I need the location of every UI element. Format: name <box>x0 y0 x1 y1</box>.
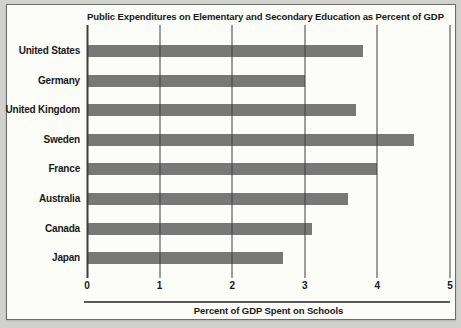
category-label-france: France <box>48 162 80 176</box>
category-label-germany: Germany <box>38 74 80 88</box>
bar-australia <box>87 193 348 205</box>
x-tick-label-0: 0 <box>84 280 90 291</box>
category-label-united-states: United States <box>19 44 80 58</box>
y-axis-labels: United StatesGermanyUnited KingdomSweden… <box>7 25 83 278</box>
figure-page: Public Expenditures on Elementary and Se… <box>0 0 461 328</box>
category-label-united-kingdom: United Kingdom <box>6 103 80 117</box>
x-tick-label-4: 4 <box>375 280 381 291</box>
x-tick-label-3: 3 <box>302 280 308 291</box>
bar-canada <box>87 223 312 235</box>
chart-panel: Public Expenditures on Elementary and Se… <box>6 4 456 320</box>
category-label-japan: Japan <box>52 251 80 265</box>
bar-germany <box>87 75 305 87</box>
x-axis-rule <box>84 301 450 303</box>
bar-sweden <box>87 134 414 146</box>
chart-title: Public Expenditures on Elementary and Se… <box>81 11 450 22</box>
bar-japan <box>87 252 283 264</box>
category-label-sweden: Sweden <box>43 133 80 147</box>
plot-area <box>87 25 450 278</box>
gridline-3 <box>304 25 305 278</box>
gridline-5 <box>450 25 451 278</box>
x-axis-title: Percent of GDP Spent on Schools <box>87 305 450 316</box>
bar-united-kingdom <box>87 104 356 116</box>
gridline-2 <box>232 25 233 278</box>
gridline-1 <box>159 25 160 278</box>
category-label-australia: Australia <box>39 192 80 206</box>
category-label-canada: Canada <box>45 222 80 236</box>
x-axis-ticks: 012345 <box>87 280 450 294</box>
y-axis-line <box>87 25 89 278</box>
x-tick-label-2: 2 <box>229 280 235 291</box>
x-tick-label-5: 5 <box>447 280 453 291</box>
x-tick-label-1: 1 <box>157 280 163 291</box>
bar-united-states <box>87 45 363 57</box>
gridline-4 <box>377 25 378 278</box>
